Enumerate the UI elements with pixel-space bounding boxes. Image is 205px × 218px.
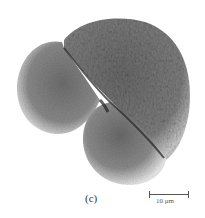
scale-tick-right <box>188 191 189 198</box>
scale-label: 10 μm <box>156 197 174 205</box>
pollen-grain-image <box>0 0 205 218</box>
micrograph-figure: (c) 10 μm <box>0 0 205 218</box>
scale-line <box>149 194 189 195</box>
scale-bar: 10 μm <box>149 190 189 210</box>
panel-label: (c) <box>85 192 97 204</box>
